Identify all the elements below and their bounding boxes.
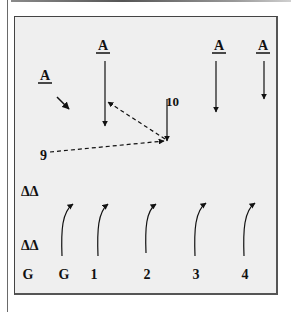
delta-pair-lower: ΔΔ: [21, 238, 39, 253]
curved-run-arrow-4: [244, 203, 255, 256]
diagonal-arrow-icon: [57, 97, 69, 109]
attacker-a-3: A: [212, 38, 226, 53]
tactics-diagram: A A A A 10 9 ΔΔ ΔΔ G G 1 2 3 4: [0, 0, 293, 312]
label-1: 1: [91, 267, 98, 282]
label-g-right: G: [59, 267, 70, 282]
svg-text:A: A: [98, 38, 109, 53]
dashed-pass-10-to-a2: [108, 102, 165, 139]
label-g-left: G: [23, 267, 34, 282]
curved-run-arrow-3: [195, 203, 206, 256]
svg-text:A: A: [40, 68, 51, 83]
attacker-a-4: A: [256, 38, 270, 53]
player-9-label: 9: [40, 148, 47, 163]
curved-run-arrow-1: [98, 204, 108, 256]
curved-run-arrow-g: [62, 204, 73, 256]
attacker-a-2: A: [96, 38, 110, 53]
dashed-pass-9-to-10: [50, 141, 164, 152]
svg-text:A: A: [214, 38, 225, 53]
player-10-label: 10: [166, 94, 179, 109]
label-3: 3: [193, 267, 200, 282]
curved-run-arrow-2: [146, 204, 156, 253]
attacker-a-1: A: [38, 68, 52, 83]
svg-text:A: A: [258, 38, 269, 53]
label-4: 4: [242, 267, 249, 282]
label-2: 2: [144, 267, 151, 282]
delta-pair-upper: ΔΔ: [21, 184, 39, 199]
